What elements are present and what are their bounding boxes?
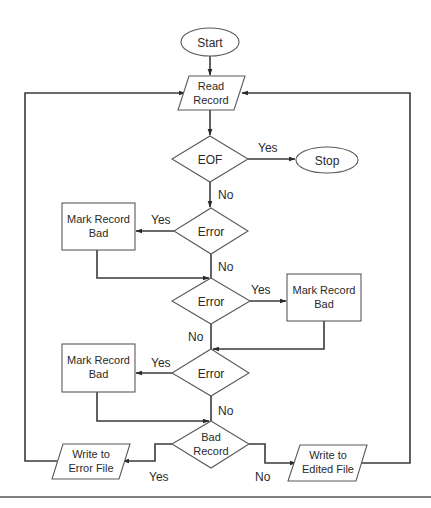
error2-yes-label: Yes <box>251 283 271 297</box>
eof-label: EOF <box>198 153 223 167</box>
node-mark-bad-3: Mark Record Bad <box>62 344 135 392</box>
error1-no-label: No <box>218 260 234 274</box>
error1-yes-label: Yes <box>151 213 171 227</box>
node-stop: Stop <box>296 147 358 173</box>
node-start: Start <box>181 28 239 56</box>
edge-writeerror-loop-to-read <box>25 93 185 461</box>
edge-markbad3-to-badrecord <box>97 392 209 421</box>
bad-record-label-line2: Record <box>193 445 228 457</box>
read-record-label-line1: Read <box>198 80 224 92</box>
eof-yes-label: Yes <box>258 141 278 155</box>
node-error-3: Error <box>172 349 249 396</box>
error2-label: Error <box>198 295 225 309</box>
error1-label: Error <box>198 225 225 239</box>
node-write-error-file: Write to Error File <box>52 444 130 479</box>
error3-no-label: No <box>218 404 234 418</box>
node-bad-record: Bad Record <box>172 421 249 468</box>
start-label: Start <box>197 36 223 50</box>
write-error-label-line1: Write to <box>72 448 110 460</box>
write-edited-label-line1: Write to <box>309 449 347 461</box>
node-write-edited-file: Write to Edited File <box>288 445 367 481</box>
node-mark-bad-1: Mark Record Bad <box>62 203 135 250</box>
read-record-label-line2: Record <box>193 94 228 106</box>
edge-badrecord-to-writeedited <box>249 444 296 463</box>
node-mark-bad-2: Mark Record Bad <box>287 274 361 321</box>
edge-badrecord-to-writeerror <box>123 444 172 461</box>
node-error-2: Error <box>172 278 250 324</box>
mark-bad1-label-line2: Bad <box>89 227 109 239</box>
write-error-label-line2: Error File <box>68 462 113 474</box>
flowchart-canvas: Start Read Record EOF Stop Error Mark Re… <box>0 0 431 508</box>
bad-record-label-line1: Bad <box>201 431 221 443</box>
bad-record-yes-label: Yes <box>149 470 169 484</box>
mark-bad2-label-line1: Mark Record <box>293 284 356 296</box>
edge-markbad1-to-error2 <box>97 250 209 278</box>
error3-label: Error <box>198 367 225 381</box>
mark-bad3-label-line1: Mark Record <box>67 354 130 366</box>
edge-markbad2-to-error3 <box>213 321 324 349</box>
node-eof: EOF <box>172 136 248 182</box>
write-edited-label-line2: Edited File <box>302 463 354 475</box>
mark-bad1-label-line1: Mark Record <box>67 213 130 225</box>
mark-bad3-label-line2: Bad <box>89 368 109 380</box>
node-read-record: Read Record <box>178 76 245 110</box>
bad-record-no-label: No <box>255 470 271 484</box>
eof-no-label: No <box>218 188 234 202</box>
mark-bad2-label-line2: Bad <box>314 298 334 310</box>
error3-yes-label: Yes <box>151 356 171 370</box>
error2-no-label: No <box>188 330 204 344</box>
stop-label: Stop <box>315 154 340 168</box>
node-error-1: Error <box>174 208 248 254</box>
